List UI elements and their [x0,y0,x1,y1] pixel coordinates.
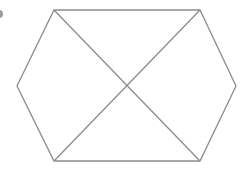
diagram-background [0,0,249,173]
hexagon-diagram [0,0,249,173]
